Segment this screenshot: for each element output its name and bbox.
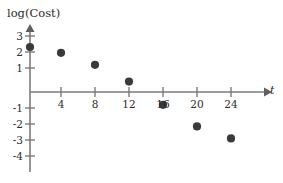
y-axis-arrow-icon bbox=[26, 24, 35, 32]
data-point bbox=[125, 78, 133, 86]
x-axis-label: t bbox=[270, 84, 274, 97]
x-tick-label: 4 bbox=[58, 99, 65, 110]
x-tick-label: 8 bbox=[92, 99, 99, 110]
data-point bbox=[57, 49, 65, 57]
y-tick-label: 3 bbox=[16, 31, 23, 42]
y-tick-label: -2 bbox=[13, 119, 23, 130]
x-tick-label: 24 bbox=[224, 99, 237, 110]
scatter-plot: log(Cost) t 4 8 12 16 20 24 3 2 1 -1 -2 … bbox=[0, 0, 283, 183]
y-tick-label: -3 bbox=[13, 135, 23, 146]
x-tick-label: 12 bbox=[122, 99, 135, 110]
y-tick-label: 1 bbox=[16, 63, 23, 74]
data-point bbox=[227, 134, 235, 142]
plot-canvas bbox=[0, 0, 283, 183]
x-tick-label: 20 bbox=[190, 99, 203, 110]
y-tick-label: -4 bbox=[13, 151, 23, 162]
data-point bbox=[193, 122, 201, 130]
data-point bbox=[26, 43, 34, 51]
y-tick-label: 2 bbox=[16, 47, 23, 58]
data-point bbox=[91, 61, 99, 69]
y-axis-label: log(Cost) bbox=[7, 6, 60, 20]
x-tick-label: 16 bbox=[156, 99, 169, 110]
y-tick-label: -1 bbox=[13, 103, 23, 114]
